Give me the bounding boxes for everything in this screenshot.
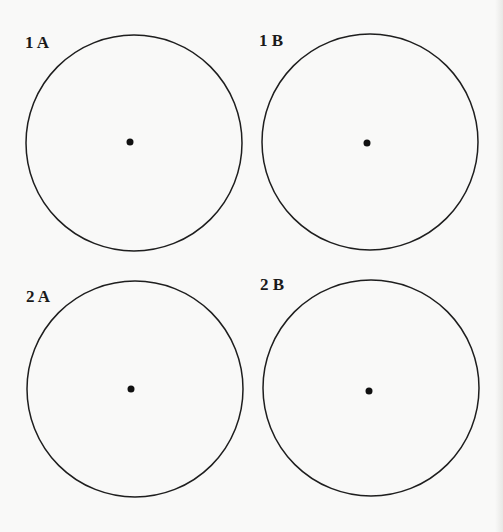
circle-2b [263, 280, 479, 496]
figure-1a [26, 35, 242, 251]
circle-1a [26, 35, 242, 251]
circles-diagram [0, 0, 503, 532]
label-1b: 1 B [259, 31, 283, 51]
label-2a: 2 A [26, 287, 50, 307]
center-dot-2b [366, 388, 373, 395]
figure-2a [27, 281, 243, 497]
figure-1b [262, 34, 478, 250]
center-dot-1a [127, 139, 134, 146]
label-1a: 1 A [25, 33, 49, 53]
center-dot-1b [364, 140, 371, 147]
figure-2b [263, 280, 479, 496]
center-dot-2a [128, 386, 135, 393]
circle-2a [27, 281, 243, 497]
label-2b: 2 B [260, 275, 284, 295]
